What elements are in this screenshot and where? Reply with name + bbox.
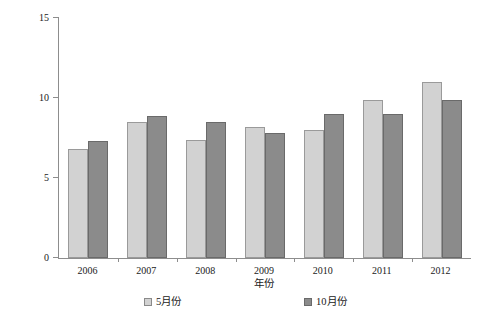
bar-2012-may [422, 82, 442, 258]
bar-2012-october [442, 100, 462, 258]
bar-2010-may [304, 130, 324, 258]
y-tick-label-15: 15 [39, 10, 49, 26]
x-tick-divider [236, 258, 237, 262]
legend-swatch-october [304, 298, 312, 306]
x-tick-divider [118, 258, 119, 262]
bar-group-2009 [245, 18, 285, 258]
bar-2011-may [363, 100, 383, 258]
legend-label: 5月份 [156, 294, 181, 310]
legend-label: 10月份 [316, 294, 347, 310]
bar-2009-october [265, 133, 285, 258]
bar-2010-october [324, 114, 344, 258]
bar-2006-october [88, 141, 108, 258]
legend-swatch-may [144, 298, 152, 306]
bar-chart-figure: 地下水NO3-N平均含量（mg/L） 051015 20062007200820… [0, 0, 486, 320]
bar-2007-may [127, 122, 147, 258]
y-tick-label-0: 0 [44, 250, 49, 266]
bar-group-2008 [186, 18, 226, 258]
bar-2008-may [186, 140, 206, 258]
bar-group-2006 [68, 18, 108, 258]
bar-2011-october [383, 114, 403, 258]
bar-2006-may [68, 149, 88, 258]
bars-layer [59, 18, 471, 258]
bar-group-2010 [304, 18, 344, 258]
bar-2007-october [147, 116, 167, 258]
bar-2009-may [245, 127, 265, 258]
plot-area: 051015 [58, 18, 471, 259]
y-tick-label-10: 10 [39, 90, 49, 106]
bar-group-2011 [363, 18, 403, 258]
bar-group-2012 [422, 18, 462, 258]
x-tick-divider [353, 258, 354, 262]
bar-group-2007 [127, 18, 167, 258]
x-tick-divider [177, 258, 178, 262]
x-axis-title: 年份 [58, 277, 470, 291]
legend-item-october[interactable]: 10月份 [304, 294, 347, 310]
legend-item-may[interactable]: 5月份 [144, 294, 181, 310]
x-tick-divider [294, 258, 295, 262]
y-tick-label-5: 5 [44, 170, 49, 186]
x-tick-divider [412, 258, 413, 262]
bar-2008-october [206, 122, 226, 258]
chart-legend: 5月份10月份 [58, 294, 470, 310]
